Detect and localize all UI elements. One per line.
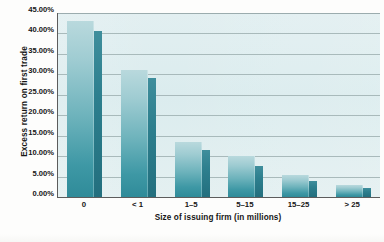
bar-series-container xyxy=(58,13,380,197)
y-axis-tick-labels: 0.00%5.00%10.00%15.00%20.00%25.00%30.00%… xyxy=(17,9,54,197)
bar-chart: Excess return on first trade 0.00%5.00%1… xyxy=(0,0,384,242)
y-axis-tick-label: 15.00% xyxy=(17,127,54,136)
x-axis-tick-label: > 25 xyxy=(344,200,359,209)
bar-front-face xyxy=(282,175,309,197)
bar-side-face xyxy=(309,181,317,197)
bar-group xyxy=(336,13,371,197)
x-axis-tick-label: 15–25 xyxy=(288,200,310,209)
paper-edge xyxy=(0,234,384,242)
bar-front-face xyxy=(228,156,255,197)
bar-front-face xyxy=(121,70,148,197)
bar-group xyxy=(228,13,263,197)
x-axis-tick-labels: 0< 11–55–1515–25> 25 xyxy=(57,200,379,214)
bar-front-face xyxy=(175,142,202,197)
y-axis-tick-label: 20.00% xyxy=(17,107,54,116)
bar-group xyxy=(67,13,102,197)
y-axis-tick-label: 5.00% xyxy=(17,168,54,177)
x-axis-tick-label: < 1 xyxy=(132,200,143,209)
bar-group xyxy=(175,13,210,197)
plot-area xyxy=(57,13,380,198)
bar-group xyxy=(121,13,156,197)
y-axis-tick-label: 25.00% xyxy=(17,86,54,95)
bar-side-face xyxy=(148,78,156,197)
y-axis-tick-label: 35.00% xyxy=(17,45,54,54)
y-axis-tick-label: 30.00% xyxy=(17,66,54,75)
bar-side-face xyxy=(255,166,263,197)
bar-side-face xyxy=(202,150,210,197)
bar-side-face xyxy=(94,31,102,197)
x-axis-tick-label: 0 xyxy=(82,200,86,209)
y-axis-tick-label: 0.00% xyxy=(17,189,54,198)
bar-side-face xyxy=(363,188,371,197)
y-axis-tick-label: 10.00% xyxy=(17,148,54,157)
bar-group xyxy=(282,13,317,197)
x-axis-title: Size of issuing firm (in millions) xyxy=(57,213,379,222)
x-axis-tick-label: 1–5 xyxy=(185,200,198,209)
y-axis-tick-label: 40.00% xyxy=(17,25,54,34)
x-axis-tick-label: 5–15 xyxy=(236,200,253,209)
y-axis-tick-label: 45.00% xyxy=(17,5,54,14)
bar-front-face xyxy=(67,21,94,197)
bar-front-face xyxy=(336,185,363,197)
